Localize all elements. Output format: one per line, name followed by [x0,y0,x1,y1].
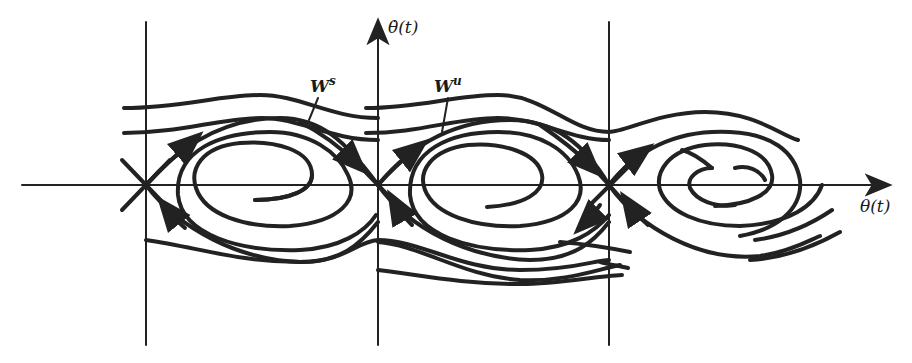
unstable-manifold-label: Wu [434,74,462,96]
y-axis-label: θ̇(t) [388,17,418,37]
stable-manifold-label: Ws [310,74,336,96]
unstable-manifold-pointer [442,98,448,132]
phase-portrait-figure: θ̇(t) θ(t) Ws Wu [0,0,912,363]
stable-manifold-pointer [309,98,318,120]
trajectory-top-1 [124,95,378,118]
x-axis-label: θ(t) [860,196,890,216]
trajectory-bottom-4 [560,242,630,252]
